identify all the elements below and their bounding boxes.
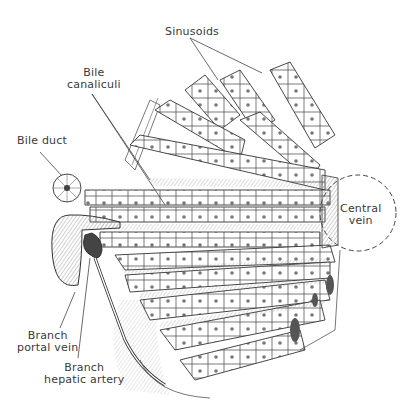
label-bile-canaliculi-line2: canaliculi: [67, 79, 121, 91]
label-branch-hepatic-artery: Branch hepatic artery: [44, 362, 125, 386]
label-hepatic-artery-line2: hepatic artery: [44, 374, 125, 386]
bile-duct: [53, 174, 81, 202]
label-branch-portal-vein: Branch portal vein: [17, 330, 78, 354]
label-central-vein: Central vein: [340, 203, 381, 227]
label-bile-canaliculi: Bile canaliculi: [67, 67, 121, 91]
label-central-vein-line2: vein: [340, 215, 381, 227]
label-portal-vein-line2: portal vein: [17, 342, 78, 354]
label-bile-duct: Bile duct: [17, 135, 67, 147]
central-vein-wall: [322, 175, 338, 248]
label-sinusoids: Sinusoids: [165, 26, 219, 38]
